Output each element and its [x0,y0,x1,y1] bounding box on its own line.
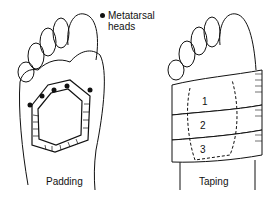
padding-pad [32,80,90,152]
metatarsal-dot-icon [100,13,105,18]
caption-padding: Padding [46,176,83,187]
metatarsal-dots [28,84,93,108]
tape-strips [172,70,262,162]
legend: Metatarsal heads [108,10,155,32]
legend-label-line1: Metatarsal [108,10,155,21]
tape-strip-3-label: 3 [200,144,206,155]
tape-strip-2-label: 2 [200,120,206,131]
left-foot-outline [18,14,104,190]
caption-taping: Taping [199,176,228,187]
foot-padding-taping-diagram: Metatarsal heads 1 2 3 Padding Taping [0,0,276,198]
legend-label-line2: heads [108,21,155,32]
tape-strip-1-label: 1 [202,96,208,107]
